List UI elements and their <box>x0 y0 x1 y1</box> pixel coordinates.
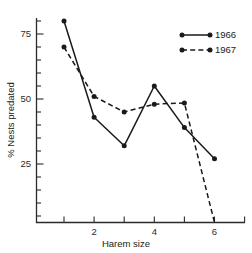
x-axis-title: Harem size <box>102 238 150 249</box>
legend-marker <box>180 48 185 53</box>
data-point-marker <box>122 143 127 148</box>
line-chart: 255075 246 Harem size % Nests predated 1… <box>0 0 252 253</box>
x-tick-label: 2 <box>91 226 96 237</box>
data-point-marker <box>182 125 187 130</box>
data-point-marker <box>182 100 187 105</box>
y-tick-label: 25 <box>20 158 31 169</box>
data-point-marker <box>92 115 97 120</box>
y-tick-label: 75 <box>20 28 31 39</box>
y-tick-label: 50 <box>20 93 31 104</box>
data-point-marker <box>92 94 97 99</box>
legend-marker <box>180 33 185 38</box>
data-point-marker <box>62 19 67 24</box>
legend-label: 1967 <box>215 44 236 55</box>
data-point-marker <box>212 156 217 161</box>
x-tick-label: 6 <box>212 226 217 237</box>
data-point-marker <box>152 102 157 107</box>
y-axis-title: % Nests predated <box>5 82 16 158</box>
legend-marker <box>208 48 213 53</box>
legend-marker <box>208 33 213 38</box>
legend-label: 1966 <box>215 29 236 40</box>
chart-figure: 255075 246 Harem size % Nests predated 1… <box>0 0 252 253</box>
data-point-marker <box>62 45 67 50</box>
x-tick-label: 4 <box>152 226 157 237</box>
data-point-marker <box>152 84 157 89</box>
data-point-marker <box>122 110 127 115</box>
